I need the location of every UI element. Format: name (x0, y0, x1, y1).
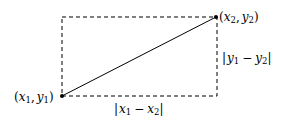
segment-line (62, 17, 216, 96)
point-1-label: (x1,y1) (14, 90, 54, 105)
point-1-dot (60, 94, 64, 98)
horizontal-distance-label: |x1−x2| (114, 102, 164, 117)
point-2-label: (x2,y2) (219, 10, 259, 25)
point-2-dot (214, 15, 218, 19)
distance-diagram: (x1,y1) (x2,y2) |y1−y2| |x1−x2| (0, 0, 281, 121)
vertical-distance-label: |y1−y2| (222, 51, 272, 66)
